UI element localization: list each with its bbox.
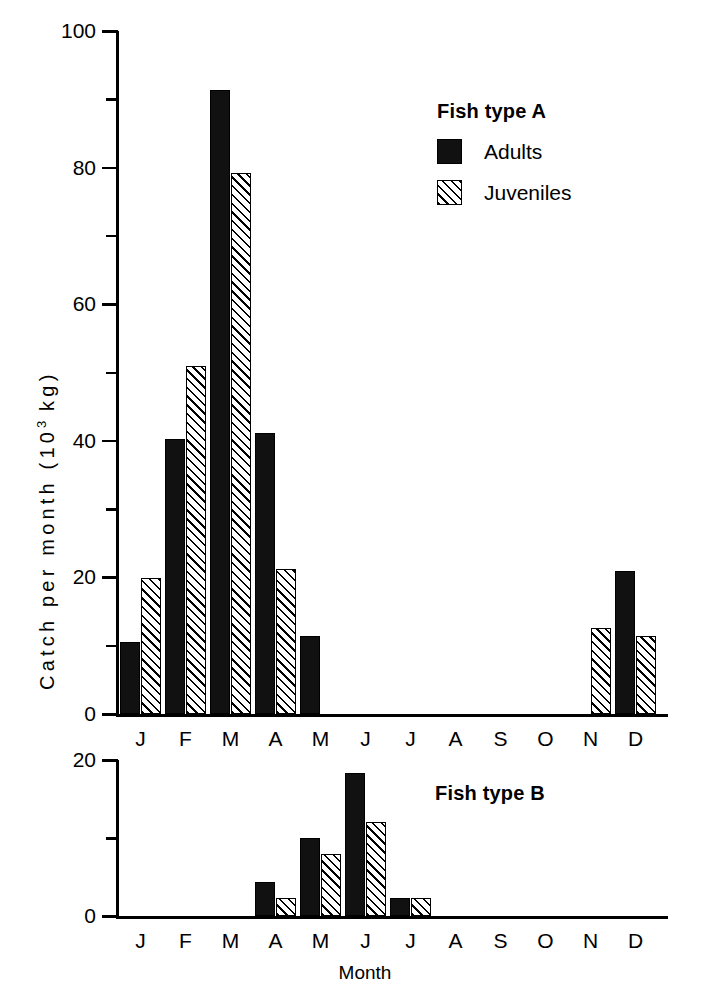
x-axis-tick-label: A bbox=[436, 728, 476, 749]
y-axis-tick-label: 60 bbox=[28, 293, 96, 314]
bar-adults bbox=[615, 571, 635, 714]
bar-juveniles bbox=[276, 898, 296, 916]
x-axis-tick-label: F bbox=[166, 728, 206, 749]
y-axis-major-tick bbox=[102, 303, 118, 306]
x-axis-tick-label: J bbox=[346, 930, 386, 951]
x-axis-tick-label: M bbox=[211, 728, 251, 749]
y-axis-title-suffix: kg) bbox=[36, 371, 58, 421]
x-axis-tick-label: F bbox=[166, 930, 206, 951]
y-axis-major-tick bbox=[102, 167, 118, 170]
x-axis-tick-label: N bbox=[571, 728, 611, 749]
bar-juveniles bbox=[276, 569, 296, 714]
x-axis-tick-label: O bbox=[526, 930, 566, 951]
x-axis-tick-label: A bbox=[256, 930, 296, 951]
bar-juveniles bbox=[186, 366, 206, 714]
y-axis-tick-label: 80 bbox=[28, 157, 96, 178]
x-axis-tick-label: S bbox=[481, 728, 521, 749]
bar-juveniles bbox=[141, 578, 161, 714]
x-axis-tick-label: M bbox=[301, 930, 341, 951]
legend-item-adults: Adults bbox=[437, 139, 572, 164]
bar-adults bbox=[165, 439, 185, 714]
panel-b-title: Fish type B bbox=[435, 782, 545, 805]
x-axis-tick-label: J bbox=[391, 728, 431, 749]
y-axis-major-tick bbox=[102, 30, 118, 33]
y-axis-minor-tick bbox=[106, 508, 118, 511]
legend-label-juveniles: Juveniles bbox=[484, 181, 572, 205]
bar-adults bbox=[345, 773, 365, 916]
y-axis-title-prefix: Catch per month (10 bbox=[36, 428, 58, 690]
x-axis-tick-label: J bbox=[346, 728, 386, 749]
y-axis-major-tick bbox=[102, 759, 118, 762]
legend-label-adults: Adults bbox=[484, 140, 542, 164]
x-axis-title: Month bbox=[310, 962, 420, 984]
y-axis-tick-label: 100 bbox=[28, 20, 96, 41]
y-axis-major-tick bbox=[102, 915, 118, 918]
x-axis-tick-label: D bbox=[616, 930, 656, 951]
bar-adults bbox=[300, 838, 320, 916]
bar-juveniles bbox=[366, 822, 386, 916]
x-axis-tick-label: D bbox=[616, 728, 656, 749]
x-axis-tick-label: N bbox=[571, 930, 611, 951]
legend-item-juveniles: Juveniles bbox=[437, 180, 572, 205]
bar-juveniles bbox=[411, 898, 431, 916]
x-axis-tick-label: O bbox=[526, 728, 566, 749]
bar-adults bbox=[120, 642, 140, 714]
y-axis-minor-tick bbox=[106, 98, 118, 101]
bar-adults bbox=[390, 898, 410, 916]
y-axis-minor-tick bbox=[106, 837, 118, 840]
bar-juveniles bbox=[636, 636, 656, 714]
y-axis-major-tick bbox=[102, 576, 118, 579]
y-axis-tick-label: 20 bbox=[28, 749, 96, 770]
bar-juveniles bbox=[591, 628, 611, 714]
y-axis-minor-tick bbox=[106, 645, 118, 648]
bar-juveniles bbox=[231, 173, 251, 714]
bar-juveniles bbox=[321, 854, 341, 916]
y-axis-minor-tick bbox=[106, 235, 118, 238]
x-axis-tick-label: A bbox=[256, 728, 296, 749]
bar-adults bbox=[300, 636, 320, 714]
y-axis-tick-label: 0 bbox=[28, 905, 96, 926]
bar-adults bbox=[210, 90, 230, 714]
x-axis-tick-label: A bbox=[436, 930, 476, 951]
x-axis-tick-label: J bbox=[391, 930, 431, 951]
bar-adults bbox=[255, 882, 275, 916]
legend-swatch-adults-icon bbox=[437, 139, 462, 164]
y-axis-tick-label: 0 bbox=[28, 703, 96, 724]
figure-canvas: 020406080100JFMAMJJASOND 020JFMAMJJASOND… bbox=[0, 0, 723, 1000]
x-axis-line bbox=[116, 916, 668, 919]
bar-adults bbox=[255, 433, 275, 714]
y-axis-minor-tick bbox=[106, 372, 118, 375]
x-axis-tick-label: J bbox=[121, 930, 161, 951]
y-axis-title-exponent: 3 bbox=[34, 421, 49, 428]
legend: Fish type A Adults Juveniles bbox=[437, 100, 572, 205]
y-axis-major-tick bbox=[102, 440, 118, 443]
y-axis-major-tick bbox=[102, 713, 118, 716]
x-axis-tick-label: J bbox=[121, 728, 161, 749]
x-axis-tick-label: M bbox=[301, 728, 341, 749]
x-axis-tick-label: M bbox=[211, 930, 251, 951]
x-axis-line bbox=[116, 714, 668, 717]
legend-swatch-juveniles-icon bbox=[437, 180, 462, 205]
x-axis-tick-label: S bbox=[481, 930, 521, 951]
y-axis-title: Catch per month (103 kg) bbox=[34, 371, 59, 691]
legend-title: Fish type A bbox=[437, 100, 572, 123]
